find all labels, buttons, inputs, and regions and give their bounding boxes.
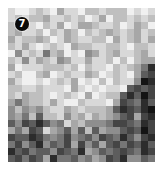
grid-cell <box>64 127 71 134</box>
grid-cell <box>78 15 85 22</box>
grid-cell <box>113 22 120 29</box>
grid-cell <box>141 113 148 120</box>
grid-cell <box>78 127 85 134</box>
grid-cell <box>50 57 57 64</box>
grid-cell <box>99 22 106 29</box>
pixel-grid <box>8 8 155 162</box>
grid-cell <box>127 78 134 85</box>
grid-cell <box>127 113 134 120</box>
grid-cell <box>57 155 64 162</box>
grid-cell <box>50 99 57 106</box>
grid-cell <box>148 85 155 92</box>
grid-cell <box>43 71 50 78</box>
grid-cell <box>22 155 29 162</box>
grid-cell <box>57 92 64 99</box>
grid-cell <box>92 50 99 57</box>
grid-cell <box>141 22 148 29</box>
grid-cell <box>99 85 106 92</box>
grid-cell <box>43 29 50 36</box>
grid-cell <box>36 134 43 141</box>
grid-cell <box>127 29 134 36</box>
grid-cell <box>43 85 50 92</box>
grid-cell <box>64 15 71 22</box>
grid-cell <box>141 92 148 99</box>
grid-cell <box>148 148 155 155</box>
grid-cell <box>113 57 120 64</box>
grid-cell <box>22 148 29 155</box>
grid-cell <box>127 43 134 50</box>
grid-cell <box>15 99 22 106</box>
grid-cell <box>134 78 141 85</box>
grid-cell <box>106 85 113 92</box>
grid-cell <box>106 57 113 64</box>
grid-cell <box>71 22 78 29</box>
grid-cell <box>127 120 134 127</box>
grid-cell <box>29 141 36 148</box>
grid-cell <box>57 36 64 43</box>
grid-cell <box>78 71 85 78</box>
grid-cell <box>71 36 78 43</box>
grid-cell <box>36 78 43 85</box>
grid-cell <box>99 141 106 148</box>
grid-cell <box>36 120 43 127</box>
grid-cell <box>92 15 99 22</box>
grid-cell <box>106 120 113 127</box>
grid-cell <box>36 64 43 71</box>
grid-cell <box>36 36 43 43</box>
grid-cell <box>64 22 71 29</box>
grid-cell <box>50 92 57 99</box>
grid-cell <box>99 134 106 141</box>
grid-cell <box>36 92 43 99</box>
grid-cell <box>36 141 43 148</box>
number-badge: 7 <box>15 17 29 31</box>
grid-cell <box>71 43 78 50</box>
grid-cell <box>71 85 78 92</box>
grid-cell <box>57 64 64 71</box>
grid-cell <box>85 43 92 50</box>
grid-cell <box>36 50 43 57</box>
grid-cell <box>85 78 92 85</box>
grid-cell <box>29 85 36 92</box>
grid-cell <box>120 57 127 64</box>
grid-cell <box>99 78 106 85</box>
grid-cell <box>50 64 57 71</box>
grid-cell <box>15 141 22 148</box>
grid-cell <box>71 99 78 106</box>
grid-cell <box>71 64 78 71</box>
grid-cell <box>141 85 148 92</box>
grid-cell <box>141 50 148 57</box>
grid-cell <box>29 50 36 57</box>
grid-cell <box>134 43 141 50</box>
grid-cell <box>29 99 36 106</box>
grid-cell <box>106 127 113 134</box>
grid-cell <box>78 29 85 36</box>
grid-cell <box>36 127 43 134</box>
grid-cell <box>127 8 134 15</box>
grid-cell <box>71 71 78 78</box>
grid-cell <box>50 120 57 127</box>
grid-cell <box>134 120 141 127</box>
grid-cell <box>134 92 141 99</box>
grid-cell <box>85 127 92 134</box>
grid-cell <box>85 22 92 29</box>
grid-cell <box>92 29 99 36</box>
grid-cell <box>15 92 22 99</box>
grid-cell <box>29 92 36 99</box>
grid-cell <box>127 92 134 99</box>
grid-cell <box>134 106 141 113</box>
grid-cell <box>85 29 92 36</box>
grid-cell <box>22 57 29 64</box>
grid-cell <box>92 120 99 127</box>
grid-cell <box>15 148 22 155</box>
grid-cell <box>99 155 106 162</box>
grid-cell <box>113 99 120 106</box>
grid-cell <box>8 134 15 141</box>
grid-cell <box>29 78 36 85</box>
grid-cell <box>134 141 141 148</box>
grid-cell <box>127 106 134 113</box>
grid-cell <box>134 36 141 43</box>
grid-cell <box>120 78 127 85</box>
grid-cell <box>36 29 43 36</box>
grid-cell <box>148 57 155 64</box>
grid-cell <box>148 36 155 43</box>
